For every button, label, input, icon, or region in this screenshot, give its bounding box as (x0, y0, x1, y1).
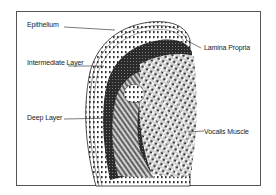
epithelium-leader (64, 27, 115, 30)
label-epithelium: Epithelium (27, 21, 59, 29)
label-deep-layer: Deep Layer (27, 114, 62, 122)
label-lamina-propria: Lamina Propria (204, 44, 250, 52)
label-intermediate-layer: Intermediate Layer (27, 59, 84, 67)
vocal-fold-illustration (0, 0, 276, 195)
label-vocalis-muscle: Vocalis Muscle (204, 128, 249, 136)
